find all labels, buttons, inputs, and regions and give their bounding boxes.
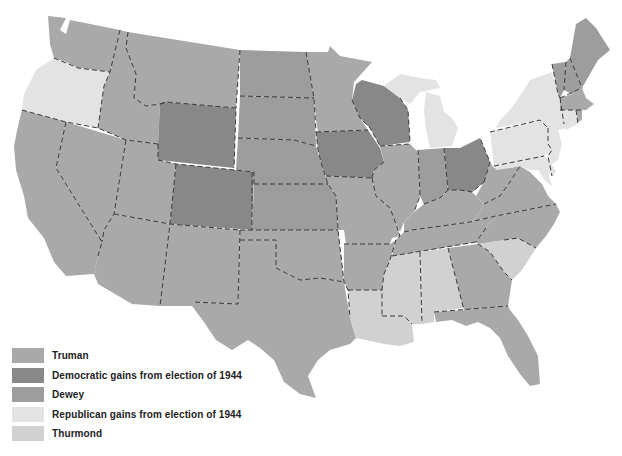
legend-label: Democratic gains from election of 1944 — [52, 370, 242, 381]
state-montana — [126, 32, 240, 108]
legend-swatch — [12, 348, 44, 363]
legend-label: Thurmond — [52, 428, 102, 439]
legend-label: Truman — [52, 350, 89, 361]
legend-item-thurmond: Thurmond — [12, 424, 242, 444]
legend-item-democratic-gains: Democratic gains from election of 1944 — [12, 366, 242, 386]
legend-label: Republican gains from election of 1944 — [52, 409, 241, 420]
state-north-dakota — [240, 50, 314, 98]
legend-label: Dewey — [52, 389, 84, 400]
state-new-mexico — [160, 224, 240, 306]
state-michigan — [424, 92, 458, 148]
legend-item-dewey: Dewey — [12, 385, 242, 405]
legend-swatch — [12, 387, 44, 402]
legend-swatch — [12, 407, 44, 422]
legend: Truman Democratic gains from election of… — [12, 346, 242, 444]
state-colorado — [170, 164, 254, 230]
state-wyoming — [158, 102, 236, 168]
legend-swatch — [12, 368, 44, 383]
legend-swatch — [12, 426, 44, 441]
state-new-jersey — [548, 128, 562, 164]
state-florida — [434, 306, 540, 386]
state-kansas — [252, 184, 338, 230]
state-massachusetts — [560, 88, 594, 110]
legend-item-republican-gains: Republican gains from election of 1944 — [12, 405, 242, 425]
state-iowa — [316, 130, 384, 178]
legend-item-truman: Truman — [12, 346, 242, 366]
